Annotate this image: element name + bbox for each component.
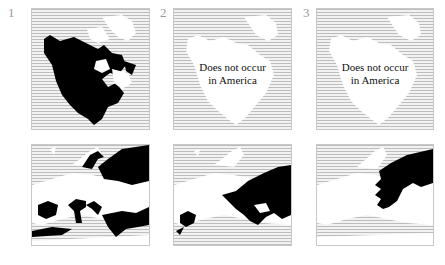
map-north-america-3: Does not occur in America bbox=[316, 8, 434, 130]
europe-map-icon bbox=[174, 145, 291, 245]
note-line-2: in America bbox=[317, 74, 433, 87]
no-occurrence-note: Does not occur in America bbox=[317, 61, 433, 87]
map-europe-2 bbox=[173, 144, 292, 246]
map-europe-1 bbox=[31, 144, 150, 246]
map-north-america-2: Does not occur in America bbox=[173, 8, 292, 130]
europe-map-icon bbox=[32, 145, 149, 245]
note-line-1: Does not occur bbox=[317, 61, 433, 74]
europe-map-icon bbox=[317, 145, 433, 245]
panel-number-2: 2 bbox=[160, 6, 167, 19]
no-occurrence-note: Does not occur in America bbox=[174, 61, 291, 87]
panel-number-1: 1 bbox=[8, 6, 15, 19]
map-europe-3 bbox=[316, 144, 434, 246]
map-north-america-1 bbox=[31, 8, 150, 130]
note-line-2: in America bbox=[174, 74, 291, 87]
north-america-map-icon bbox=[32, 9, 149, 129]
note-line-1: Does not occur bbox=[174, 61, 291, 74]
panel-number-3: 3 bbox=[303, 6, 310, 19]
